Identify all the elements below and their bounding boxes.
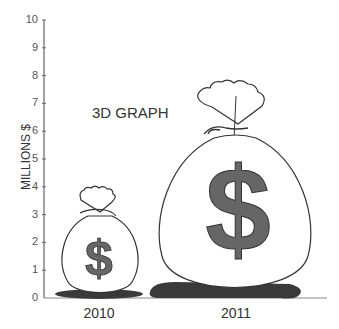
dollar-icon-2011: $ — [205, 143, 271, 275]
y-tick-label: 3 — [24, 208, 38, 220]
y-tick-label: 10 — [24, 13, 38, 25]
y-tick-label: 0 — [24, 291, 38, 303]
y-tick-label: 9 — [24, 41, 38, 53]
money-bag-2011: $ — [150, 80, 311, 298]
money-bag-2010: $ — [55, 186, 143, 299]
y-tick-label: 7 — [24, 96, 38, 108]
chart-canvas: $ $ — [0, 0, 339, 329]
chart-title: 3D GRAPH — [92, 104, 169, 121]
x-category-label: 2010 — [69, 305, 129, 321]
y-tick-label: 8 — [24, 69, 38, 81]
x-category-label: 2011 — [206, 305, 266, 321]
y-axis-label: MILLIONS $ — [19, 117, 33, 197]
y-tick-label: 1 — [24, 263, 38, 275]
money-bag-chart: $ $ 10 9 8 7 6 5 4 3 2 1 0 MILLIONS $ 3D… — [0, 0, 339, 329]
dollar-icon-2010: $ — [85, 230, 113, 286]
y-tick-label: 2 — [24, 235, 38, 247]
